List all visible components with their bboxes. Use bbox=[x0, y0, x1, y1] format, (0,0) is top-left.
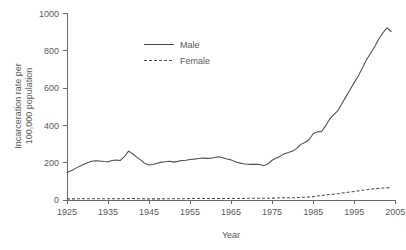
y-tick-label-1000: 1000 bbox=[39, 9, 59, 19]
legend-label-male: Male bbox=[180, 40, 200, 50]
y-tick-label-400: 400 bbox=[44, 121, 59, 131]
x-tick-label-1975: 1975 bbox=[262, 207, 282, 217]
y-axis-tick-labels: 1000 800 600 400 200 0 bbox=[39, 9, 59, 206]
chart-legend: Male Female bbox=[144, 40, 210, 66]
y-tick-label-200: 200 bbox=[44, 158, 59, 168]
y-tick-label-800: 800 bbox=[44, 46, 59, 56]
chart-figure: 1000 800 600 400 200 0 1925 1935 1945 19… bbox=[0, 0, 406, 250]
y-tick-label-600: 600 bbox=[44, 83, 59, 93]
x-tick-label-1935: 1935 bbox=[98, 207, 118, 217]
x-tick-label-1945: 1945 bbox=[139, 207, 159, 217]
x-tick-label-1995: 1995 bbox=[344, 207, 364, 217]
y-axis-title-line1: Incarceration rate per bbox=[13, 63, 23, 149]
x-axis-ticks bbox=[67, 200, 395, 204]
y-axis-ticks bbox=[63, 13, 67, 200]
line-chart-canvas: 1000 800 600 400 200 0 1925 1935 1945 19… bbox=[0, 0, 406, 250]
y-axis-title-line2: 100,000 population bbox=[24, 68, 34, 145]
x-tick-label-1955: 1955 bbox=[180, 207, 200, 217]
x-tick-label-1965: 1965 bbox=[221, 207, 241, 217]
x-tick-label-1925: 1925 bbox=[57, 207, 77, 217]
x-axis-title: Year bbox=[222, 230, 240, 240]
x-tick-label-1985: 1985 bbox=[303, 207, 323, 217]
data-series-group bbox=[67, 28, 391, 199]
legend-label-female: Female bbox=[180, 56, 210, 66]
x-axis-tick-labels: 1925 1935 1945 1955 1965 1975 1985 1995 … bbox=[57, 207, 405, 217]
series-line-male bbox=[67, 28, 391, 173]
y-tick-label-0: 0 bbox=[54, 195, 59, 205]
series-line-female bbox=[67, 188, 391, 199]
x-tick-label-2005: 2005 bbox=[385, 207, 405, 217]
